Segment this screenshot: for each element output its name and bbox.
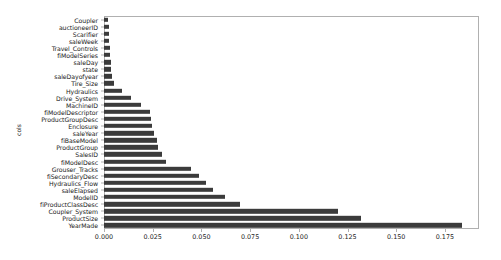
bar-row: Hydraulics_Flow [0,179,501,186]
bar-category-label: ProductGroup [56,144,98,151]
bar [104,131,154,135]
bar [104,39,109,43]
bar-row: SalesID [0,151,501,158]
bar [104,195,225,199]
x-axis-tick-label: 0.000 [95,233,113,241]
bar-category-label: auctioneerID [59,23,98,30]
bar-row: saleElapsed [0,186,501,193]
bar-category-label: Hydraulics_Flow [49,179,98,186]
bar [104,24,109,28]
x-axis-tick [250,229,251,232]
x-axis-tick-label: 0.175 [436,233,454,241]
x-axis-tick [153,229,154,232]
x-axis-tick-label: 0.150 [387,233,405,241]
bar-row: fiModelDesc [0,158,501,165]
bar [104,223,462,227]
bar-category-label: ProductSize [62,215,98,222]
bar-row: Grouser_Tracks [0,165,501,172]
bar-row: ProductGroup [0,144,501,151]
bar [104,152,162,156]
bar [104,166,191,170]
bar-row: Scarifier [0,30,501,37]
x-axis-tick [104,229,105,232]
bar-category-label: Coupler_System [49,208,99,215]
bar [104,95,131,99]
bar-row: Drive_System [0,94,501,101]
bar-category-label: Tire_Size [71,80,98,87]
bar [104,216,361,220]
bar [104,88,122,92]
bar [104,110,150,114]
bar-row: saleDayofyear [0,73,501,80]
bar-category-label: Hydraulics [66,87,98,94]
x-axis-tick [445,229,446,232]
x-axis-tick-label: 0.125 [338,233,356,241]
bar-category-label: fiModelDescriptor [44,108,98,115]
bar-row: saleWeek [0,37,501,44]
bar-category-label: saleElapsed [62,186,98,193]
bar-row: ModelID [0,194,501,201]
bar-row: Tire_Size [0,80,501,87]
x-axis-tick [396,229,397,232]
bar [104,145,158,149]
bar-row: Hydraulics [0,87,501,94]
bar [104,138,157,142]
bar-category-label: Travel_Controls [52,44,98,51]
x-axis-tick [201,229,202,232]
bar-row: Travel_Controls [0,44,501,51]
x-axis-tick-label: 0.050 [192,233,210,241]
bar-category-label: Grouser_Tracks [52,165,98,172]
bar-row: fiProductClassDesc [0,201,501,208]
bar-row: fiModelSeries [0,52,501,59]
bar [104,174,199,178]
bar [104,81,114,85]
bar-category-label: fiSecondaryDesc [47,172,98,179]
x-axis-tick [348,229,349,232]
bar-category-label: saleDayofyear [54,73,98,80]
bar [104,188,213,192]
bar [104,67,111,71]
bar [104,181,206,185]
bar-row: auctioneerID [0,23,501,30]
bar-row: fiModelDescriptor [0,108,501,115]
bar-chart-figure: cols CouplerauctioneerIDScarifiersaleWee… [0,0,501,260]
bar-category-label: saleDay [74,59,98,66]
bar-row: Enclosure [0,123,501,130]
x-axis-tick-label: 0.025 [144,233,162,241]
bar-category-label: SalesID [75,151,98,158]
bar-category-label: saleWeek [69,37,98,44]
bar [104,32,109,36]
bar [104,117,151,121]
bar-row: saleDay [0,59,501,66]
bar-row: Coupler_System [0,208,501,215]
bar [104,74,112,78]
bar [104,209,338,213]
bar-row: saleYear [0,130,501,137]
x-axis-tick-label: 0.100 [290,233,308,241]
bar [104,124,152,128]
bar-row: fiSecondaryDesc [0,172,501,179]
bar-row: state [0,66,501,73]
bar-row: Coupler [0,16,501,23]
bar-category-label: Drive_System [56,94,98,101]
bar-category-label: Enclosure [68,123,98,130]
bar-category-label: saleYear [73,130,98,137]
bar-category-label: ProductGroupDesc [41,115,98,122]
bar-row: ProductSize [0,215,501,222]
bar-category-label: Scarifier [73,30,98,37]
bar-row: MachineID [0,101,501,108]
bar-category-label: state [83,66,98,73]
bar-category-label: fiModelSeries [57,52,98,59]
bar-category-label: Coupler [74,16,98,23]
bar-row: ProductGroupDesc [0,115,501,122]
bar [104,17,108,21]
bar [104,103,141,107]
bar [104,159,166,163]
x-axis-tick [299,229,300,232]
bar-category-label: fiBaseModel [61,137,98,144]
x-axis-tick-label: 0.075 [241,233,259,241]
bar-category-label: ModelID [73,194,98,201]
bar-category-label: fiProductClassDesc [40,201,98,208]
bar [104,60,111,64]
bar-category-label: YearMade [68,222,98,229]
